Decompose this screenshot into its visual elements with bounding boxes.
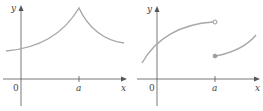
y-axis-arrow-icon (19, 5, 24, 11)
x-axis-label: x (121, 83, 126, 93)
origin-label: 0 (13, 83, 19, 93)
graph-cusp-canvas: y 0 a x (0, 0, 131, 111)
a-label: a (76, 83, 81, 93)
x-axis-label: x (255, 83, 260, 93)
graph-cusp: y 0 a x (0, 0, 131, 111)
open-circle-endpoint (213, 20, 217, 24)
y-axis-label: y (10, 3, 17, 13)
closed-dot-endpoint (213, 54, 217, 58)
y-axis-label: y (146, 4, 153, 14)
origin-label: 0 (149, 83, 155, 93)
a-label: a (212, 83, 217, 93)
left-branch-curve (142, 22, 213, 63)
x-axis-arrow-icon (121, 77, 127, 82)
cusp-curve (6, 8, 124, 51)
x-axis-arrow-icon (254, 77, 260, 82)
graph-jump-discontinuity: y 0 a x (131, 0, 263, 111)
y-axis-arrow-icon (155, 6, 160, 12)
right-branch-curve (216, 35, 256, 56)
graph-jump-canvas: y 0 a x (131, 0, 263, 111)
